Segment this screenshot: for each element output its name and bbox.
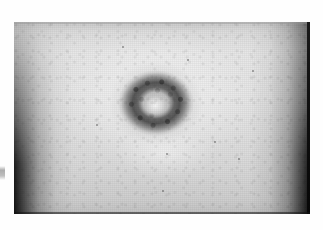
plate-edge-right bbox=[307, 22, 310, 214]
plate-edge-bottom bbox=[14, 212, 310, 214]
figure-root bbox=[0, 0, 323, 230]
halftone-grain-coarse bbox=[14, 22, 310, 214]
margin-ink-mark bbox=[0, 166, 5, 180]
plate-edge-top bbox=[14, 22, 310, 24]
clinical-photograph bbox=[14, 22, 310, 214]
